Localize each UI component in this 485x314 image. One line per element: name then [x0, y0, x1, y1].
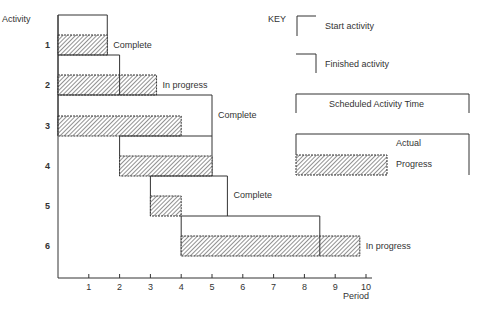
activity-label: 2 [45, 80, 50, 90]
progress-bar [58, 116, 181, 136]
activity-label: 3 [45, 121, 50, 131]
legend-start-activity: Start activity [325, 21, 375, 31]
activity-row-3: 3Complete [45, 95, 257, 136]
tick-label: 9 [333, 282, 338, 292]
tick-label: 3 [148, 282, 153, 292]
y-axis-label: Activity [2, 14, 31, 24]
status-label: Complete [233, 190, 272, 200]
status-label: Complete [113, 40, 152, 50]
legend-scheduled-time: Scheduled Activity Time [329, 99, 424, 109]
status-label: In progress [366, 241, 412, 251]
progress-bar [58, 75, 157, 95]
legend-finished-activity: Finished activity [325, 59, 390, 69]
activity-label: 6 [45, 241, 50, 251]
progress-icon [296, 155, 387, 175]
activity-label: 1 [45, 40, 50, 50]
progress-bar [150, 196, 181, 216]
legend-progress: Progress [396, 159, 433, 169]
activity-row-4: 4 [45, 136, 212, 176]
legend-actual: Actual [396, 138, 421, 148]
tick-label: 4 [179, 282, 184, 292]
activity-label: 4 [45, 161, 50, 171]
activity-row-5: 5Complete [45, 176, 272, 216]
bars-group: 1Complete2In progress3Complete45Complete… [45, 15, 411, 256]
status-label: Complete [218, 110, 257, 120]
activity-row-1: 1Complete [45, 15, 152, 55]
activity-row-6: 6In progress [45, 216, 411, 256]
tick-label: 2 [117, 282, 122, 292]
tick-label: 6 [240, 282, 245, 292]
tick-label: 1 [86, 282, 91, 292]
progress-bar [120, 156, 212, 176]
start-activity-icon [297, 16, 316, 36]
status-label: In progress [163, 80, 209, 90]
progress-bar [58, 35, 107, 55]
finished-activity-icon [296, 54, 316, 73]
activity-row-2: 2In progress [45, 55, 208, 95]
gantt-chart: Activity 1Complete2In progress3Complete4… [0, 0, 485, 314]
activity-label: 5 [45, 201, 50, 211]
legend-title: KEY [268, 14, 286, 24]
tick-label: 8 [302, 282, 307, 292]
tick-label: 5 [209, 282, 214, 292]
x-axis-label: Period [343, 291, 369, 301]
x-ticks: 12345678910 [86, 274, 371, 292]
tick-label: 7 [271, 282, 276, 292]
legend: KEY Start activity Finished activity Sch… [268, 14, 469, 175]
progress-bar [181, 236, 360, 256]
